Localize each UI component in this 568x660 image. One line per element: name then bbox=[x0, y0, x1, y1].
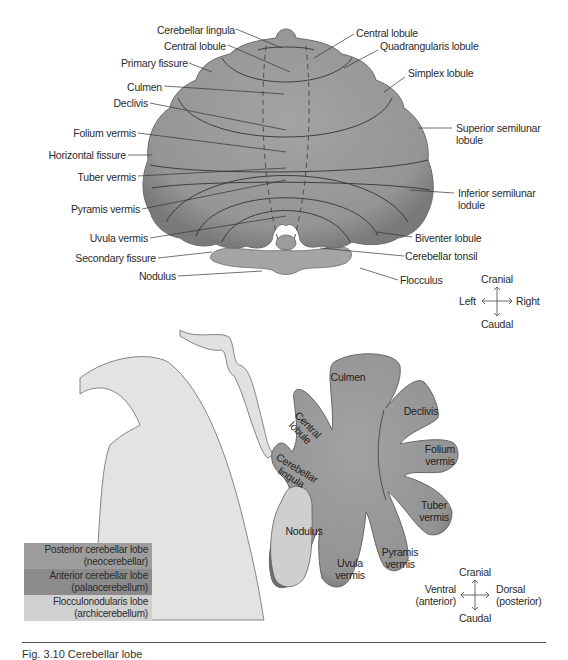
label-cerebellar-lingula: Cerebellar lingula bbox=[130, 24, 235, 36]
orient-cranial-top: Cranial bbox=[477, 273, 517, 285]
label-uvula-vermis: Uvula vermis bbox=[40, 232, 148, 244]
label-pyramis-vermis: Pyramis vermis bbox=[40, 203, 140, 215]
orient-right: Right bbox=[516, 295, 540, 307]
tonsil-notch bbox=[276, 235, 296, 250]
label-nodulus: Nodulus bbox=[80, 270, 176, 282]
label-culmen: Culmen bbox=[80, 81, 162, 93]
orientation-cross-vd bbox=[461, 580, 489, 610]
caption-divider bbox=[22, 642, 546, 643]
label-central-lobule-left: Central lobule bbox=[130, 40, 226, 52]
orient-cranial-sag: Cranial bbox=[455, 566, 495, 578]
label-biventer-lobule: Biventer lobule bbox=[415, 232, 481, 244]
lobe-folium-vermis: Folium vermis bbox=[420, 443, 460, 467]
orient-ventral: Ventral (anterior) bbox=[410, 583, 456, 607]
lobe-uvula-vermis: Uvula vermis bbox=[330, 557, 370, 581]
lobe-legend: Posterior cerebellar lobe (neocerebellar… bbox=[24, 543, 152, 621]
flocculus-shape bbox=[210, 247, 351, 275]
orient-caudal-top: Caudal bbox=[477, 318, 517, 330]
label-central-lobule-right: Central lobule bbox=[356, 27, 418, 39]
lobe-nodulus: Nodulus bbox=[284, 525, 324, 537]
label-folium-vermis: Folium vermis bbox=[40, 127, 136, 139]
label-secondary-fissure: Secondary fissure bbox=[40, 252, 156, 264]
label-tuber-vermis: Tuber vermis bbox=[40, 171, 136, 183]
label-simplex-lobule: Simplex lobule bbox=[408, 67, 474, 79]
label-superior-semilunar-lobule: Superior semilunar lobule bbox=[456, 122, 541, 146]
orient-left: Left bbox=[459, 295, 476, 307]
lobe-tuber-vermis: Tuber vermis bbox=[414, 499, 454, 523]
label-flocculus: Flocculus bbox=[400, 274, 443, 286]
lobe-declivis: Declivis bbox=[396, 405, 446, 417]
label-inferior-semilunar-lodule: Inferior semilunar lodule bbox=[458, 187, 536, 211]
label-primary-fissure: Primary fissure bbox=[80, 57, 188, 69]
legend-anterior-lobe: Anterior cerebellar lobe (palaocerebellu… bbox=[24, 569, 152, 595]
legend-posterior-lobe: Posterior cerebellar lobe (neocerebellar… bbox=[24, 543, 152, 569]
label-declivis: Declivis bbox=[80, 97, 148, 109]
figure-caption: Fig. 3.10 Cerebellar lobe bbox=[22, 648, 142, 660]
orientation-cross-lr bbox=[482, 287, 512, 316]
orient-dorsal: Dorsal (posterior) bbox=[496, 583, 542, 607]
label-cerebellar-tonsil: Cerebellar tonsil bbox=[405, 250, 477, 262]
lobe-culmen: Culmen bbox=[318, 371, 378, 383]
label-horizontal-fissure: Horizontal fissure bbox=[20, 149, 126, 161]
orient-caudal-sag: Caudal bbox=[455, 612, 495, 624]
lobe-pyramis-vermis: Pyramis vermis bbox=[378, 546, 422, 570]
label-quadrangularis-lobule: Quadrangularis lobule bbox=[380, 40, 479, 52]
legend-flocculonodular-lobe: Flocculonodularis lobe (archicerebellum) bbox=[24, 595, 152, 621]
